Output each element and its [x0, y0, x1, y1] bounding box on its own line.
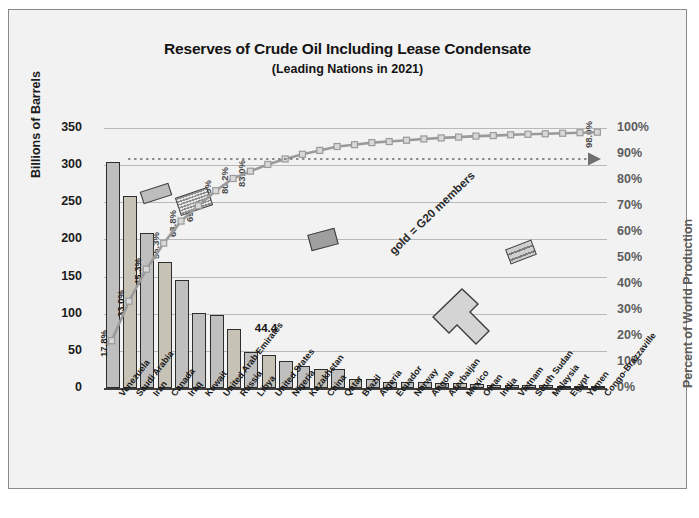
x-tick-label: Norway	[412, 392, 420, 398]
cumulative-label: 80.2%	[219, 168, 230, 195]
y-tick-right: 30%	[617, 302, 663, 316]
x-tick-label: India	[498, 392, 506, 398]
y-tick-left: 0	[38, 380, 82, 394]
chart-title: Reserves of Crude Oil Including Lease Co…	[9, 40, 686, 58]
x-tick-label: Ecuador	[394, 392, 402, 398]
cumulative-label: 33.0%	[115, 290, 126, 317]
plot-area: 17.8%33.0%45.3%55.3%63.8%69.7%75.5%80.2%…	[104, 128, 607, 388]
x-tick-label: Egypt	[568, 392, 576, 398]
y-tick-left: 300	[38, 157, 82, 171]
x-tick-label: Libya	[255, 392, 263, 398]
y-tick-left: 50	[38, 343, 82, 357]
data-label: 44.4	[255, 322, 277, 334]
x-tick-label: Nigeria	[290, 392, 298, 398]
x-tick-label: Brazil	[360, 392, 368, 398]
y-tick-left: 350	[38, 120, 82, 134]
x-tick-label: Canada	[169, 392, 177, 398]
x-tick-label: Qatar	[342, 392, 350, 398]
cumulative-label: 17.8%	[98, 330, 109, 357]
chart-screenshot: Reserves of Crude Oil Including Lease Co…	[0, 0, 699, 518]
x-tick-label: Kazakhstan	[307, 392, 315, 398]
gridline	[104, 277, 607, 278]
gridline	[104, 128, 607, 129]
x-tick-label: Angola	[429, 392, 437, 398]
x-tick-label: China	[325, 392, 333, 398]
x-tick-label: South Sudan	[533, 392, 541, 398]
x-tick-label: Congo-Brazzaville	[602, 392, 610, 398]
y-tick-left: 100	[38, 306, 82, 320]
chart-frame: Reserves of Crude Oil Including Lease Co…	[8, 9, 687, 489]
chart-subtitle: (Leading Nations in 2021)	[9, 62, 686, 76]
bar-kuwait	[192, 313, 206, 388]
x-tick-label: Malaysia	[550, 392, 558, 398]
y-tick-right: 50%	[617, 250, 663, 264]
gridline	[104, 165, 607, 166]
y-tick-right: 40%	[617, 276, 663, 290]
x-tick-label: Iran	[151, 392, 159, 398]
cumulative-label: 98.0%	[583, 121, 594, 148]
x-tick-label: Kuwait	[203, 392, 211, 398]
x-tick-label: Venezuela	[117, 392, 125, 398]
y-tick-left: 250	[38, 194, 82, 208]
y-tick-left: 200	[38, 231, 82, 245]
x-tick-label: United Arab Emirates	[221, 392, 229, 398]
cumulative-label: 45.3%	[132, 258, 143, 285]
y-tick-right: 80%	[617, 172, 663, 186]
cumulative-label: 55.3%	[150, 232, 161, 259]
x-tick-label: Vietnam	[516, 392, 524, 398]
x-tick-label: United States	[273, 392, 281, 398]
y-tick-right: 70%	[617, 198, 663, 212]
y-tick-right: 0%	[617, 380, 663, 394]
cumulative-label: 83.0%	[236, 160, 247, 187]
x-tick-label: Yemen	[585, 392, 593, 398]
y-tick-right: 90%	[617, 146, 663, 160]
cumulative-label: 63.8%	[167, 210, 178, 237]
y-tick-right: 100%	[617, 120, 663, 134]
x-tick-label: Oman	[481, 392, 489, 398]
y-axis-label-right: Percent of World Production	[681, 219, 695, 388]
x-tick-label: Azerbaijan	[446, 392, 454, 398]
x-tick-label: Saudi Arabia	[134, 392, 142, 398]
x-tick-label: Iraq	[186, 392, 194, 398]
x-tick-label: Russia	[238, 392, 246, 398]
x-tick-label: Algeria	[377, 392, 385, 398]
y-tick-left: 150	[38, 269, 82, 283]
x-tick-label: Mexico	[464, 392, 472, 398]
y-tick-right: 60%	[617, 224, 663, 238]
